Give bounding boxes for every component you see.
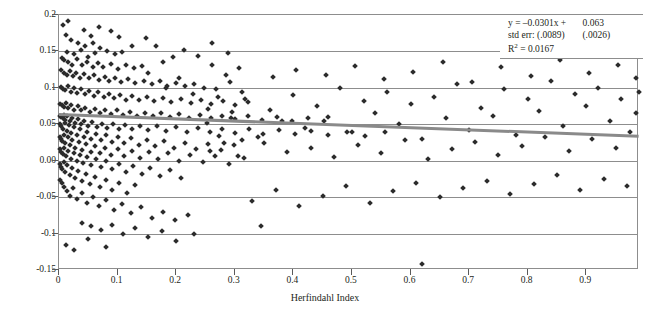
data-point	[98, 164, 104, 170]
data-point	[437, 194, 443, 200]
data-point	[139, 63, 145, 69]
data-point	[616, 62, 622, 68]
data-point	[172, 218, 178, 224]
data-point	[132, 81, 138, 87]
data-point	[90, 65, 96, 71]
data-point	[111, 207, 117, 213]
data-point	[624, 183, 630, 189]
data-point	[136, 97, 142, 103]
data-point	[235, 153, 241, 159]
data-point	[246, 127, 252, 133]
data-point	[352, 63, 358, 69]
data-point	[188, 100, 194, 106]
data-point	[578, 187, 584, 193]
data-point	[129, 43, 135, 49]
data-point	[332, 154, 338, 160]
data-point	[112, 76, 118, 82]
data-point	[302, 125, 308, 131]
data-point	[96, 24, 102, 30]
data-point	[132, 225, 138, 231]
data-point	[109, 139, 115, 145]
data-point	[96, 77, 102, 83]
data-point	[154, 124, 160, 130]
data-point	[136, 142, 142, 148]
data-point	[88, 223, 94, 229]
data-point	[101, 94, 107, 100]
x-tick-label: 0.2	[155, 275, 195, 285]
data-point	[116, 180, 122, 186]
data-point	[191, 81, 197, 87]
data-point	[145, 234, 151, 240]
data-point	[64, 49, 70, 55]
data-point	[74, 132, 80, 138]
data-point	[231, 143, 237, 149]
data-point	[207, 148, 213, 154]
data-point	[102, 107, 108, 113]
data-point	[87, 181, 93, 187]
annotation-equation-plus: +	[561, 18, 566, 28]
x-tick-label: 0.5	[331, 275, 371, 285]
data-point	[106, 91, 112, 97]
data-point	[308, 145, 314, 151]
data-point	[261, 131, 267, 137]
data-point	[144, 94, 150, 100]
x-tick-label: 0.9	[565, 275, 605, 285]
data-point	[132, 183, 138, 189]
data-point	[77, 152, 83, 158]
data-point	[117, 92, 123, 98]
data-point	[293, 67, 299, 73]
data-point	[305, 115, 311, 121]
data-point	[290, 92, 296, 98]
x-tick-label: 0.1	[97, 275, 137, 285]
data-point	[337, 85, 343, 91]
data-point	[408, 101, 414, 107]
data-point	[589, 136, 595, 142]
data-point	[70, 137, 76, 143]
data-point	[128, 135, 134, 141]
x-tick-mark	[58, 269, 59, 275]
data-point	[83, 105, 89, 111]
data-point	[200, 159, 206, 165]
data-point	[270, 74, 276, 80]
x-tick-label: 0.3	[214, 275, 254, 285]
data-point	[187, 152, 193, 158]
data-point	[267, 107, 273, 113]
data-point	[73, 175, 79, 181]
data-point	[81, 135, 87, 141]
gridline	[59, 234, 637, 235]
data-point	[185, 212, 191, 218]
data-point	[85, 237, 91, 243]
data-point	[220, 98, 226, 104]
data-point	[84, 154, 90, 160]
data-point	[145, 127, 151, 133]
data-point	[216, 94, 222, 100]
regression-line	[59, 113, 639, 138]
data-point	[240, 137, 246, 143]
data-point	[176, 111, 182, 117]
data-point	[90, 194, 96, 200]
data-point	[232, 130, 238, 136]
data-point	[472, 139, 478, 145]
data-point	[103, 132, 109, 138]
data-point	[139, 171, 145, 177]
data-point	[343, 183, 349, 189]
x-tick-mark	[117, 269, 118, 275]
data-point	[63, 242, 69, 248]
data-point	[162, 138, 168, 144]
data-point	[98, 227, 104, 233]
data-point	[103, 177, 109, 183]
data-point	[115, 134, 121, 140]
data-point	[124, 62, 130, 68]
data-point	[152, 143, 158, 149]
data-point	[531, 181, 537, 187]
data-point	[431, 94, 437, 100]
data-point	[219, 126, 225, 132]
data-point	[227, 79, 233, 85]
data-point	[80, 62, 86, 68]
data-point	[414, 180, 420, 186]
data-point	[513, 132, 519, 138]
data-point	[157, 78, 163, 84]
data-point	[125, 76, 131, 82]
x-tick-mark	[468, 269, 469, 275]
data-point	[165, 151, 171, 157]
